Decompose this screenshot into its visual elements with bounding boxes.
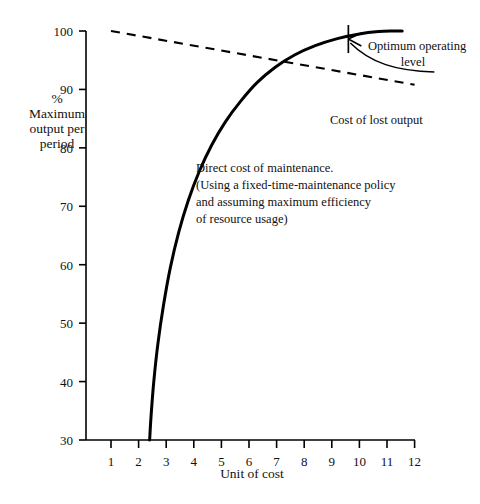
annotation-optimum-operating-level: Optimum operating level [368,39,467,69]
axes [86,31,415,440]
optimum-operating-level-line-1: Optimum operating [368,39,467,53]
direct-cost-note-line-2: (Using a fixed-time-maintenance policy [196,178,396,192]
y-tick-label-40: 40 [60,375,73,390]
annotation-cost-of-lost-output: Cost of lost output [330,113,423,127]
chart-canvas: 30405060708090100 123456789101112 % Maxi… [0,0,480,504]
optimum-operating-level-line-2: level [401,55,426,69]
y-tick-label-100: 100 [54,24,74,39]
y-axis-ticks [79,31,86,440]
x-axis-ticks [111,440,415,448]
figure-chart: 30405060708090100 123456789101112 % Maxi… [0,0,480,504]
y-axis-title-line-4: period [40,136,75,151]
series-direct-cost-of-maintenance [150,31,403,440]
x-tick-label-10: 10 [353,454,366,469]
y-tick-label-50: 50 [60,316,73,331]
x-tick-label-9: 9 [329,454,336,469]
y-axis-tick-labels: 30405060708090100 [54,24,74,448]
y-axis-title-line-2: Maximum [29,106,86,121]
y-axis-title-line-1: % [51,91,62,106]
x-tick-label-12: 12 [408,454,421,469]
direct-cost-note-line-4: of resource usage) [196,212,288,226]
direct-cost-note-line-1: Direct cost of maintenance. [196,161,333,175]
x-tick-label-1: 1 [108,454,115,469]
x-tick-label-3: 3 [163,454,170,469]
y-axis-title: % Maximum output per period [29,91,86,151]
x-tick-label-4: 4 [191,454,198,469]
y-tick-label-60: 60 [60,258,73,273]
annotation-direct-cost-note: Direct cost of maintenance. (Using a fix… [196,161,396,226]
direct-cost-note-line-3: and assuming maximum efficiency [196,195,372,209]
y-tick-label-30: 30 [60,433,73,448]
x-axis-title: Unit of cost [220,466,284,481]
y-axis-title-line-3: output per [29,121,85,136]
x-tick-label-2: 2 [135,454,142,469]
x-tick-label-11: 11 [381,454,394,469]
x-tick-label-8: 8 [301,454,308,469]
y-tick-label-70: 70 [60,199,73,214]
